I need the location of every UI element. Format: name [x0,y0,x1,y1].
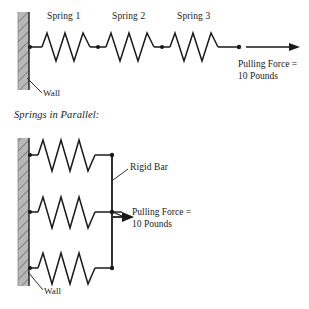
parallel-wall [18,138,29,286]
series-force-arrow [246,43,300,51]
spring-3-coil [170,33,218,61]
parallel-wall-leader [28,272,43,290]
parallel-force-label: Pulling Force = 10 Pounds [132,206,191,230]
spring-2-label: Spring 2 [112,11,145,23]
spring-1-label: Spring 1 [47,11,80,23]
series-junction-dot-2 [160,45,164,49]
series-force-line-2: 10 Pounds [238,70,297,82]
parallel-spring-1 [28,140,114,171]
spring-1-coil [42,33,90,61]
parallel-wall-label: Wall [44,286,61,298]
parallel-force-line-2: 10 Pounds [132,218,191,230]
series-force-line-1: Pulling Force = [238,58,297,70]
parallel-force-line-1: Pulling Force = [132,206,191,218]
series-force-label: Pulling Force = 10 Pounds [238,58,297,82]
series-spring-chain [28,33,241,61]
rigid-bar-leader [113,169,128,180]
rigid-bar-label: Rigid Bar [130,162,168,174]
spring-2-coil [106,33,154,61]
spring-3-label: Spring 3 [177,11,210,23]
parallel-spring-2 [28,197,114,228]
series-end-dot [237,45,241,49]
parallel-section-heading: Springs in Parallel: [14,109,99,121]
diagram-canvas [0,0,309,309]
parallel-spring-3 [28,253,114,284]
series-junction-dot-1 [96,45,100,49]
springs-diagram: Spring 1 Spring 2 Spring 3 Wall Pulling … [0,0,309,309]
series-wall-label: Wall [43,88,60,100]
parallel-force-arrow [113,212,134,222]
